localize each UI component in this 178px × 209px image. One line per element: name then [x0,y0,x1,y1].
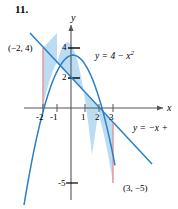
y-axis-label: y [71,13,75,23]
parabola-equation-exponent: 2 [131,49,135,57]
line-equation-label: y = −x + [133,124,168,134]
point-label-right: (3, −5) [123,184,148,193]
shaded-region-left [43,33,57,108]
graph-figure [0,0,178,209]
x-tick-label-minus1: -1 [50,113,58,122]
shaded-region-middle [57,42,99,155]
x-axis-arrow [157,105,163,110]
parabola-equation-text: y = 4 − x [95,51,131,61]
x-axis-label: x [167,103,171,113]
x-tick-label-3: 3 [109,113,114,122]
x-tick-label-2: 2 [95,113,100,122]
point-label-left: (−2, 4) [8,44,33,53]
y-axis-arrow [68,25,73,31]
y-tick-label-2: 2 [62,73,67,82]
x-tick-label-1: 1 [81,113,86,122]
y-tick-label-minus5: -5 [58,179,66,188]
problem-number: 11. [15,4,28,15]
x-tick-label-minus2: -2 [36,113,44,122]
y-tick-label-4: 4 [62,43,67,52]
parabola-equation-label: y = 4 − x2 [95,50,134,62]
